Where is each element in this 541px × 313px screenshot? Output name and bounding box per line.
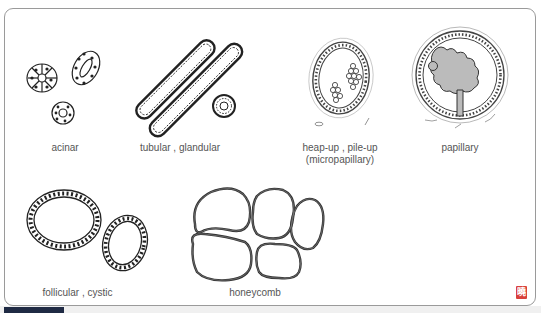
seal-stamp-icon: 曉	[516, 286, 527, 299]
heap-up-illustration	[305, 30, 380, 135]
tubular-illustration	[134, 28, 249, 138]
label-tubular-glandular: tubular , glandular	[130, 142, 230, 154]
label-follicular-cystic: follicular , cystic	[30, 287, 125, 299]
label-acinar: acinar	[40, 142, 90, 154]
page-tab-marker	[4, 307, 64, 313]
label-heap-up-main: heap-up , pile-up	[290, 142, 390, 154]
bottom-strip	[0, 306, 541, 313]
label-honeycomb: honeycomb	[220, 287, 290, 299]
label-papillary: papillary	[430, 142, 490, 154]
label-heap-up-pile-up: heap-up , pile-up (micropapillary)	[290, 142, 390, 166]
follicular-illustration	[24, 188, 159, 273]
honeycomb-illustration	[187, 186, 332, 286]
papillary-illustration	[405, 20, 520, 140]
acinar-illustration	[22, 48, 112, 128]
label-heap-up-sub: (micropapillary)	[290, 154, 390, 166]
